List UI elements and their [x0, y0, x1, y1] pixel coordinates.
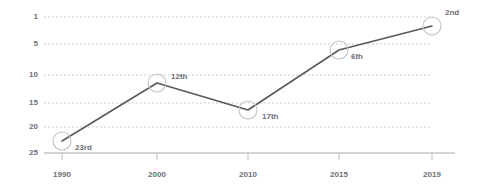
data-point-label-2015: 6th — [351, 52, 363, 61]
y-tick-label-20: 20 — [29, 122, 38, 131]
x-axis-ticks — [62, 153, 432, 160]
y-tick-label-5: 5 — [34, 39, 39, 48]
x-tick-label-2015: 2015 — [330, 170, 348, 179]
x-tick-label-2019: 2019 — [423, 170, 441, 179]
x-axis-tick-labels: 1990 2000 2010 2015 2019 — [53, 170, 441, 179]
x-tick-label-2000: 2000 — [148, 170, 166, 179]
data-point-label-1990: 23rd — [75, 143, 92, 152]
data-point-label-2019: 2nd — [445, 8, 459, 17]
rank-line-chart: 1 5 10 15 20 25 1990 2000 2010 2015 2019 — [0, 0, 478, 192]
y-axis-tick-labels: 1 5 10 15 20 25 — [29, 12, 38, 157]
data-point-markers — [53, 17, 441, 150]
data-point-label-2010: 17th — [262, 112, 279, 121]
data-point-labels: 23rd 12th 17th 6th 2nd — [75, 8, 459, 152]
y-tick-label-25: 25 — [29, 148, 38, 157]
x-tick-label-2010: 2010 — [239, 170, 257, 179]
y-tick-label-1: 1 — [34, 12, 39, 21]
data-point-label-2000: 12th — [171, 72, 188, 81]
rank-series-line — [62, 26, 432, 141]
y-tick-label-15: 15 — [29, 98, 38, 107]
x-tick-label-1990: 1990 — [53, 170, 71, 179]
y-gridlines — [44, 17, 430, 127]
y-tick-label-10: 10 — [29, 70, 38, 79]
chart-plot-area: 1 5 10 15 20 25 1990 2000 2010 2015 2019 — [0, 0, 478, 192]
